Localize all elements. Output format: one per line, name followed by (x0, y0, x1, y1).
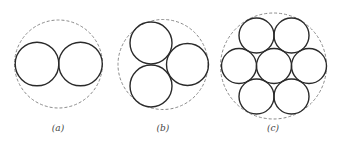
packed-circle (15, 42, 59, 86)
packed-circle (292, 49, 327, 84)
packed-circle (59, 42, 103, 86)
packed-circle (130, 65, 172, 107)
packed-circle (274, 18, 309, 53)
packed-circle (239, 18, 274, 53)
panel-c: (c) (221, 13, 327, 133)
packed-circle (167, 44, 209, 86)
packed-circle (274, 79, 309, 114)
panel-label: (b) (157, 123, 170, 133)
panel-a: (a) (15, 20, 103, 133)
packed-circle (257, 49, 292, 84)
enclosing-circle (118, 20, 208, 110)
packed-circle (222, 49, 257, 84)
circle-packing-diagram: (a) (b) (c) (0, 0, 339, 146)
packed-circle (239, 79, 274, 114)
panel-label: (a) (52, 123, 65, 133)
panel-label: (c) (267, 123, 280, 133)
panel-b: (b) (118, 20, 209, 134)
enclosing-circle (221, 13, 327, 119)
packed-circle (130, 22, 172, 64)
